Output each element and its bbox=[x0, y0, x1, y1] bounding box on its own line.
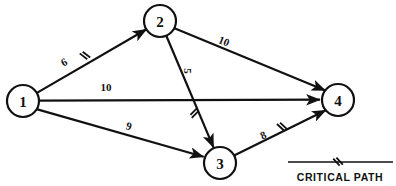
edge-1-to-2-weight: 6 bbox=[59, 55, 70, 68]
edge-1-to-2: 6 bbox=[37, 29, 147, 93]
node-3[interactable]: 3 bbox=[204, 147, 236, 179]
edge-1-to-3: 9 bbox=[37, 109, 204, 157]
edge-2-to-4-line bbox=[175, 28, 326, 90]
edge-1-to-2-line bbox=[37, 29, 147, 93]
edge-3-to-4: 8 bbox=[234, 110, 326, 155]
edge-1-to-4-line bbox=[39, 100, 320, 101]
node-4[interactable]: 4 bbox=[322, 84, 354, 116]
network-diagram-canvas: 6 10 9 10 bbox=[0, 0, 396, 186]
legend-label: CRITICAL PATH bbox=[297, 171, 384, 183]
node-2-label: 2 bbox=[156, 14, 164, 30]
edge-2-to-3-line bbox=[166, 36, 213, 148]
edge-2-to-3-weight: 5 bbox=[182, 68, 194, 74]
network-diagram: 6 10 9 10 bbox=[0, 0, 396, 186]
edge-1-to-4-weight: 10 bbox=[101, 81, 113, 93]
node-2[interactable]: 2 bbox=[144, 5, 176, 37]
node-1-label: 1 bbox=[19, 94, 27, 110]
edge-1-to-4: 10 bbox=[39, 81, 320, 101]
edge-1-to-3-weight: 9 bbox=[125, 119, 134, 132]
node-3-label: 3 bbox=[216, 156, 224, 172]
edge-3-to-4-line bbox=[234, 110, 326, 155]
edge-3-to-4-weight: 8 bbox=[258, 128, 269, 141]
legend: CRITICAL PATH bbox=[288, 156, 393, 183]
edge-2-to-4: 10 bbox=[175, 28, 326, 90]
edges-layer: 6 10 9 10 bbox=[37, 28, 326, 156]
edge-2-to-3: 5 bbox=[166, 36, 213, 148]
edge-1-to-3-line bbox=[37, 109, 204, 157]
node-1[interactable]: 1 bbox=[7, 85, 39, 117]
node-4-label: 4 bbox=[334, 93, 342, 109]
edge-1-to-2-critical-mark bbox=[80, 50, 90, 61]
